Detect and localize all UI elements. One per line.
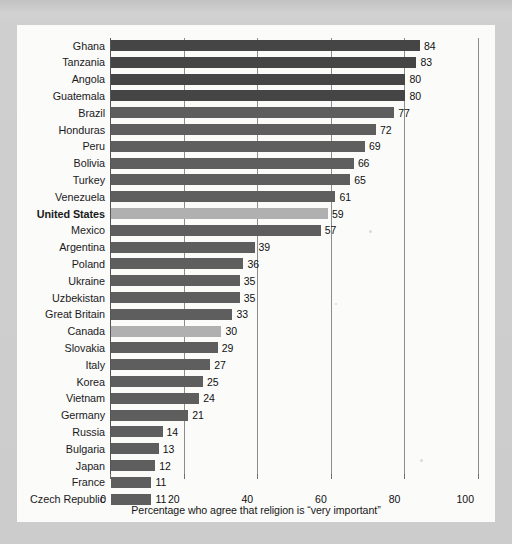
bar-row: 69 [110, 139, 478, 156]
bar-row: 39 [110, 240, 478, 257]
bar-value-label: 21 [192, 408, 203, 422]
bar-value-label: 13 [163, 442, 174, 456]
bar-angola [111, 74, 405, 85]
gridline-100 [478, 38, 479, 474]
category-label-germany: Germany [61, 408, 105, 422]
category-label-slot: Korea [17, 374, 105, 391]
category-label-slot: Great Britain [17, 307, 105, 324]
bar-row: 11 [110, 475, 478, 492]
bar-russia [111, 426, 163, 437]
bar-value-label: 69 [369, 139, 380, 153]
category-label-slot: France [17, 475, 105, 492]
bar-row: 35 [110, 273, 478, 290]
category-label-slot: Mexico [17, 223, 105, 240]
bars-group: 8483808077726966656159573936353533302927… [110, 38, 478, 474]
category-label-slot: Guatemala [17, 88, 105, 105]
category-label-russia: Russia [72, 425, 105, 439]
category-label-slot: Ghana [17, 38, 105, 55]
category-label-slot: Italy [17, 357, 105, 374]
bar-value-label: 30 [225, 324, 236, 338]
category-label-japan: Japan [76, 459, 105, 473]
bar-chart: GhanaTanzaniaAngolaGuatemalaBrazilHondur… [17, 25, 495, 522]
category-label-slot: Canada [17, 324, 105, 341]
category-label-bolivia: Bolivia [74, 156, 105, 170]
category-label-brazil: Brazil [78, 106, 105, 120]
bar-row: 33 [110, 307, 478, 324]
bar-row: 30 [110, 324, 478, 341]
category-label-slot: Germany [17, 408, 105, 425]
bar-france [111, 477, 151, 488]
bar-mexico [111, 225, 321, 236]
bar-row: 14 [110, 424, 478, 441]
bar-value-label: 77 [398, 106, 409, 120]
bar-ghana [111, 40, 420, 51]
category-label-slot: Bulgaria [17, 441, 105, 458]
bar-value-label: 57 [325, 223, 336, 237]
bar-czech-republic [111, 494, 151, 505]
category-label-slot: Venezuela [17, 189, 105, 206]
bar-row: 27 [110, 357, 478, 374]
bar-germany [111, 410, 188, 421]
category-label-turkey: Turkey [73, 173, 105, 187]
bar-value-label: 14 [167, 425, 178, 439]
bar-value-label: 24 [203, 391, 214, 405]
plot-area: 8483808077726966656159573936353533302927… [110, 38, 478, 474]
bar-value-label: 25 [207, 375, 218, 389]
category-label-honduras: Honduras [59, 123, 105, 137]
bar-value-label: 59 [332, 207, 343, 221]
bar-row: 80 [110, 72, 478, 89]
category-label-slot: Argentina [17, 240, 105, 257]
bar-row: 80 [110, 88, 478, 105]
bar-row: 29 [110, 340, 478, 357]
tick-mark-100 [478, 474, 479, 479]
category-label-ukraine: Ukraine [68, 274, 105, 288]
category-label-argentina: Argentina [59, 240, 105, 254]
category-label-slot: Turkey [17, 172, 105, 189]
bar-value-label: 12 [159, 459, 170, 473]
bar-row: 84 [110, 38, 478, 55]
category-label-united-states: United States [37, 207, 105, 221]
category-label-france: France [72, 475, 105, 489]
bar-row: 57 [110, 223, 478, 240]
category-label-poland: Poland [72, 257, 105, 271]
category-label-angola: Angola [72, 72, 105, 86]
bar-row: 25 [110, 374, 478, 391]
bar-value-label: 80 [409, 72, 420, 86]
bar-korea [111, 376, 203, 387]
bar-value-label: 35 [244, 291, 255, 305]
chart-caption: Percentage who agree that religion is “v… [17, 504, 495, 516]
bar-great-britain [111, 309, 232, 320]
bar-venezuela [111, 191, 335, 202]
bar-canada [111, 326, 221, 337]
bar-value-label: 27 [214, 358, 225, 372]
bar-ukraine [111, 275, 240, 286]
bar-japan [111, 460, 155, 471]
bar-value-label: 35 [244, 274, 255, 288]
bar-peru [111, 141, 365, 152]
bar-uzbekistan [111, 292, 240, 303]
category-label-slot: Brazil [17, 105, 105, 122]
category-label-slovakia: Slovakia [65, 341, 105, 355]
category-label-slot: United States [17, 206, 105, 223]
bar-bulgaria [111, 443, 159, 454]
bar-vietnam [111, 393, 199, 404]
bar-value-label: 83 [420, 55, 431, 69]
chart-card: GhanaTanzaniaAngolaGuatemalaBrazilHondur… [17, 25, 495, 522]
bar-value-label: 11 [155, 475, 166, 489]
category-label-uzbekistan: Uzbekistan [52, 291, 105, 305]
bar-united-states [111, 208, 328, 219]
category-label-bulgaria: Bulgaria [66, 442, 105, 456]
bar-value-label: 66 [358, 156, 369, 170]
bar-row: 59 [110, 206, 478, 223]
bar-value-label: 72 [380, 123, 391, 137]
bar-row: 65 [110, 172, 478, 189]
bar-poland [111, 258, 243, 269]
category-label-venezuela: Venezuela [55, 190, 105, 204]
bar-value-label: 65 [354, 173, 365, 187]
bar-value-label: 33 [236, 307, 247, 321]
category-axis-labels: GhanaTanzaniaAngolaGuatemalaBrazilHondur… [17, 38, 105, 474]
category-label-slot: Slovakia [17, 340, 105, 357]
bar-value-label: 61 [339, 190, 350, 204]
bar-row: 36 [110, 256, 478, 273]
category-label-mexico: Mexico [71, 223, 105, 237]
